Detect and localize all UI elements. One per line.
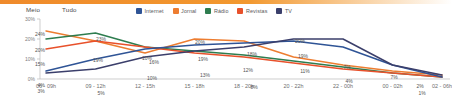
y-tick-label: 20% [25, 36, 36, 42]
x-tick-label: 12 - 15h [135, 83, 155, 89]
data-point-label: 13% [200, 72, 211, 78]
chart-widget: Meio Tudo InternetJornalRádioRevistasTV … [0, 0, 452, 95]
legend-item-label: Jornal [181, 8, 196, 14]
legend-swatch-icon [136, 8, 142, 14]
data-point-label: 2% [416, 83, 424, 89]
legend-item-jornal[interactable]: Jornal [173, 8, 197, 14]
header-label-meio: Meio [26, 6, 40, 13]
data-point-label: 20% [295, 38, 306, 44]
data-point-label: 11% [300, 68, 310, 74]
data-point-label: 5% [97, 90, 105, 95]
legend-item-label: TV [285, 8, 292, 14]
data-point-label: 19% [298, 53, 309, 59]
x-tick-label: 09 - 12h [86, 83, 106, 89]
legend-swatch-icon [276, 8, 282, 14]
legend-item-label: Revistas [246, 8, 267, 14]
chart-legend: InternetJornalRádioRevistasTV [136, 5, 292, 16]
chart-header: Meio Tudo InternetJornalRádioRevistasTV [0, 4, 452, 17]
x-tick-label: 15 - 18h [185, 83, 205, 89]
data-point-label: 12% [243, 67, 254, 73]
legend-item-internet[interactable]: Internet [136, 8, 164, 14]
x-tick-label: 02 - 06h [432, 83, 452, 89]
legend-item-rdio[interactable]: Rádio [205, 8, 228, 14]
data-point-label: 15% [35, 61, 46, 67]
y-tick-label: 0% [28, 76, 36, 82]
data-point-label: 24% [35, 31, 46, 37]
legend-item-label: Rádio [214, 8, 229, 14]
data-point-label: 10% [147, 75, 158, 81]
legend-item-revistas[interactable]: Revistas [237, 8, 267, 14]
data-point-label: 20% [35, 47, 46, 53]
data-point-label: 7% [390, 74, 398, 80]
data-point-label: 18% [247, 51, 258, 57]
data-point-label: 4% [345, 78, 353, 84]
data-point-label: 19% [198, 56, 209, 62]
data-point-label: 19% [93, 57, 104, 63]
legend-item-label: Internet [145, 8, 164, 14]
line-chart-svg: 30%20%10%0%06 - 09h09 - 12h12 - 15h15 - … [0, 17, 452, 95]
x-tick-label: 20 - 22h [284, 83, 304, 89]
x-tick-label: 00 - 02h [383, 83, 403, 89]
legend-swatch-icon [237, 8, 243, 14]
data-point-label: 1% [418, 90, 426, 95]
y-tick-label: 30% [25, 17, 36, 22]
data-point-label: 20% [195, 39, 206, 45]
legend-swatch-icon [205, 8, 211, 14]
data-point-label: 16% [149, 59, 160, 65]
plot-area: 30%20%10%0%06 - 09h09 - 12h12 - 15h15 - … [0, 17, 452, 95]
data-point-label: 7% [343, 64, 351, 70]
data-point-label: 8% [250, 84, 258, 90]
data-point-label: 3% [37, 88, 45, 94]
data-point-label: 23% [96, 36, 107, 42]
legend-swatch-icon [173, 8, 179, 14]
y-tick-label: 10% [25, 56, 36, 62]
header-label-tudo: Tudo [62, 6, 77, 13]
legend-item-tv[interactable]: TV [276, 8, 292, 14]
